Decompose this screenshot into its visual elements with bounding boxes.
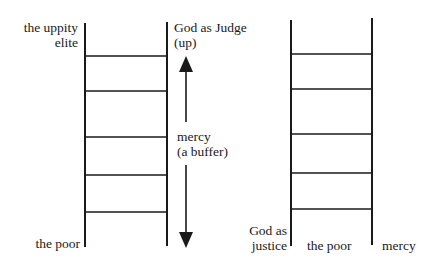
label-god-as-justice-line1: God as [222,223,287,238]
label-right-mercy: mercy [382,238,416,253]
label-god-as-judge: God as Judge (up) [174,20,247,50]
label-mercy-buffer-line2: (a buffer) [177,144,228,159]
label-god-as-justice-line2: justice [222,238,287,253]
label-uppity-elite-line2: elite [8,35,78,50]
label-uppity-elite-line1: the uppity [8,20,78,35]
left-ladder [85,22,167,247]
label-uppity-elite: the uppity elite [8,20,78,50]
arrow-up-head-icon [179,56,193,72]
label-god-as-judge-line1: God as Judge [174,20,247,35]
label-mercy-buffer: mercy (a buffer) [177,129,228,159]
right-ladder [291,18,372,246]
label-god-as-judge-line2: (up) [174,35,247,50]
label-mercy-buffer-line1: mercy [177,129,228,144]
arrow-down-head-icon [179,232,193,248]
label-left-poor: the poor [10,236,80,251]
label-right-poor: the poor [307,238,352,253]
label-god-as-justice: God as justice [222,223,287,253]
